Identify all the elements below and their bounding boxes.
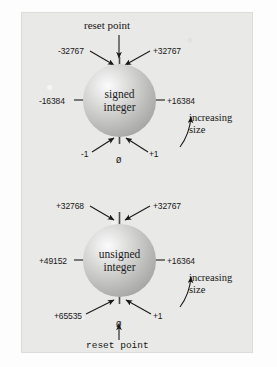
unsigned-annotation-line2: size [189, 284, 232, 296]
unsigned-sphere-label-line2: integer [104, 261, 136, 274]
unsigned-bottom-left-value: +65535 [54, 311, 82, 321]
unsigned-left-value: +49152 [39, 256, 67, 266]
unsigned-bottom-center-value: Ø [116, 320, 121, 330]
unsigned-integer-diagram: unsigned integer +32768 +32767 +49152 +1… [22, 13, 252, 352]
unsigned-right-value: +16364 [167, 256, 195, 266]
unsigned-sphere-label-line1: unsigned [99, 248, 141, 261]
unsigned-annotation-line1: increasing [189, 272, 232, 284]
unsigned-top-left-value: +32768 [56, 201, 84, 211]
unsigned-reset-point-caption: reset point [86, 340, 149, 351]
unsigned-increasing-size-annotation: increasing size [189, 272, 232, 297]
unsigned-integer-sphere: unsigned integer [83, 224, 156, 297]
unsigned-top-right-value: +32767 [153, 201, 181, 211]
figure-panel: reset point [22, 13, 252, 352]
unsigned-bottom-right-value: +1 [153, 311, 163, 321]
unsigned-arrows [22, 13, 252, 352]
